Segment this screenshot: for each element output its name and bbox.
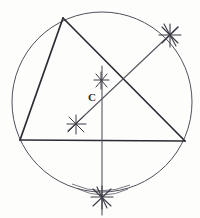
arc-intersection-upper-right-icon: [159, 24, 181, 47]
perpendicular-bisector-diagonal-line: [68, 27, 178, 131]
triangle-right-side: [63, 18, 185, 141]
geometry-figure: C: [0, 0, 200, 218]
arc-intersection-lower-left-icon: [67, 115, 86, 134]
arc-intersection-bottom-icon: [91, 186, 113, 209]
figure-canvas: C: [0, 0, 200, 218]
circumcenter-label: C: [88, 91, 96, 103]
arc-intersection-center-upper-icon: [94, 72, 109, 89]
triangle-left-side: [20, 18, 63, 140]
